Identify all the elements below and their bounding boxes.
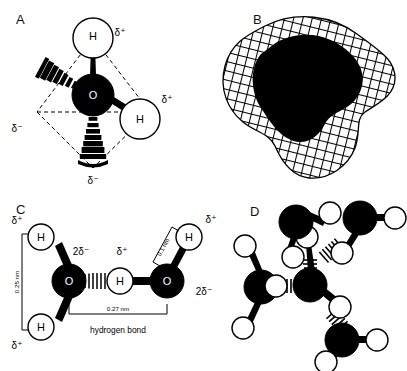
atom-neighbour-topright-oxygen bbox=[343, 201, 377, 235]
water-network-atoms bbox=[232, 201, 406, 371]
panel-c: C H H O bbox=[0, 190, 232, 371]
charge-left-bottom: δ⁺ bbox=[12, 340, 23, 351]
panel-a-diagram: H H O δ⁺ δ⁺ δ⁻ δ⁻ bbox=[0, 0, 205, 190]
figure-root: A bbox=[0, 0, 407, 371]
atom-central-oxygen bbox=[293, 268, 327, 302]
atom-bridging-hydrogen-label: H bbox=[116, 275, 124, 287]
charge-right-top: δ⁺ bbox=[206, 214, 217, 225]
charge-delta-minus-left: δ⁻ bbox=[12, 123, 23, 134]
charge-right-oxygen: 2δ⁻ bbox=[196, 286, 212, 297]
charge-delta-minus-bottom: δ⁻ bbox=[88, 175, 99, 186]
atom-neighbour-topright-hydrogen-a bbox=[384, 207, 406, 229]
atom-hydrogen-right-label: H bbox=[136, 113, 144, 125]
atom-neighbour-topright-bridging-hydrogen bbox=[331, 242, 353, 264]
hydrogen-bond-caption: hydrogen bond bbox=[90, 325, 146, 335]
atom-neighbour-bottomright-hydrogen-b bbox=[315, 351, 337, 371]
charge-delta-plus-top: δ⁺ bbox=[115, 27, 126, 38]
panel-d: D bbox=[232, 190, 407, 371]
panel-b-letter: B bbox=[253, 12, 262, 27]
distance-hh-label: 0.25 nm bbox=[13, 271, 20, 293]
panel-a-letter: A bbox=[16, 12, 25, 27]
atom-neighbour-top-hydrogen-a bbox=[319, 202, 341, 224]
distance-hbond-label: 0.27 nm bbox=[107, 305, 129, 312]
panel-b-diagram bbox=[205, 0, 407, 195]
atom-right-hydrogen-top-label: H bbox=[185, 231, 193, 243]
charge-bridging-hydrogen: δ⁺ bbox=[117, 246, 128, 257]
panel-b: B bbox=[205, 0, 407, 195]
atom-neighbour-bottomright-hydrogen-a bbox=[366, 329, 388, 351]
atom-left-hydrogen-top-label: H bbox=[37, 231, 45, 243]
atom-neighbour-left-hydrogen-b bbox=[232, 317, 254, 339]
panel-c-letter: C bbox=[16, 202, 25, 217]
atom-left-oxygen-label: O bbox=[65, 275, 74, 287]
atom-oxygen-label: O bbox=[89, 89, 98, 101]
electron-cloud-mesh bbox=[205, 0, 407, 195]
atom-neighbour-left-bridging-hydrogen bbox=[265, 275, 287, 297]
atom-neighbour-top-bridging-hydrogen bbox=[282, 246, 304, 268]
panel-a: A bbox=[0, 0, 205, 190]
distance-bracket-hh: 0.25 nm bbox=[13, 234, 29, 330]
distance-bracket-hbond: 0.27 nm bbox=[69, 304, 167, 314]
atom-central-hydrogen-down bbox=[329, 296, 351, 318]
charge-delta-plus-right: δ⁺ bbox=[162, 94, 173, 105]
panel-c-diagram: H H O H O H δ⁺ δ⁺ 2δ⁻ δ⁺ δ⁺ 2δ⁻ 0.25 nm bbox=[0, 190, 232, 371]
atom-hydrogen-top-label: H bbox=[89, 30, 97, 42]
atom-neighbour-top-oxygen bbox=[279, 205, 313, 239]
distance-oh-label: 0.1 nm bbox=[155, 237, 170, 257]
panel-d-letter: D bbox=[250, 204, 259, 219]
atom-left-hydrogen-bottom-label: H bbox=[37, 321, 45, 333]
charge-left-oxygen: 2δ⁻ bbox=[73, 246, 89, 257]
atom-neighbour-left-hydrogen-a bbox=[234, 235, 256, 257]
atom-right-oxygen-label: O bbox=[163, 275, 172, 287]
